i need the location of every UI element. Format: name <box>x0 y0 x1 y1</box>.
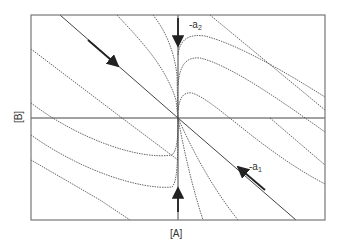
trajectory-right-line <box>270 118 325 165</box>
trajectory-upper-right-2 <box>178 58 325 132</box>
arrow-diagonal-down-icon <box>88 40 118 66</box>
trajectory-left-2 <box>31 103 178 156</box>
trajectory-left-3 <box>31 118 178 187</box>
trajectory-left-1 <box>31 49 178 160</box>
trajectory-upper-right-1 <box>178 36 325 97</box>
trajectory-lower-right-1 <box>178 118 203 220</box>
x-axis-label: [A] <box>170 229 182 239</box>
direction-arrows <box>88 18 265 212</box>
y-axis-label: [B] <box>14 111 24 123</box>
label-subscript: 1 <box>258 166 262 173</box>
phase-plane-plot <box>0 0 340 248</box>
trajectory-upper-left-2 <box>153 15 178 118</box>
eigen-label-a1: -a1 <box>249 162 262 173</box>
label-subscript: 2 <box>198 24 202 31</box>
label-prefix: -a <box>189 19 198 30</box>
trajectory-left-4 <box>31 160 130 220</box>
trajectory-upper-left-1 <box>117 15 178 118</box>
trajectory-lower-right-2 <box>178 118 238 220</box>
label-prefix: -a <box>249 161 258 172</box>
eigen-label-a2: -a2 <box>189 20 202 31</box>
